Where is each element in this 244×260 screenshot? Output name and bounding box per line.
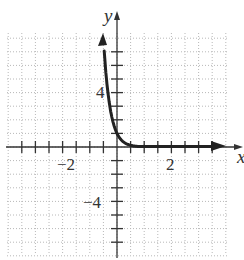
grid-lines bbox=[7, 33, 229, 256]
curve-arrow-right-icon bbox=[211, 141, 226, 151]
y-axis-arrow-icon bbox=[114, 11, 120, 20]
x-tick-label-neg2: −2 bbox=[57, 155, 75, 174]
curve-arrow-up-icon bbox=[98, 33, 107, 46]
y-axis-label: y bbox=[102, 5, 113, 26]
axes bbox=[6, 11, 243, 258]
coordinate-plane: y x −2 2 4 −4 bbox=[0, 0, 244, 260]
x-axis-label: x bbox=[236, 146, 244, 167]
y-tick-label-neg4: −4 bbox=[83, 193, 102, 212]
x-tick-label-2: 2 bbox=[166, 155, 175, 174]
y-tick-label-4: 4 bbox=[96, 83, 105, 102]
exponential-graph: y x −2 2 4 −4 bbox=[0, 0, 244, 260]
